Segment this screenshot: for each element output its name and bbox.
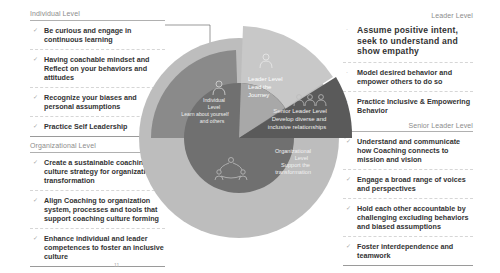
levels-wheel-diagram: Individual Level Learn about yourself an… (0, 0, 500, 273)
page-number: 11 (114, 262, 119, 268)
organizational-label-3: Support the (281, 162, 310, 168)
senior-label-2: Develop diverse and (272, 116, 327, 122)
individual-label-1: Individual (203, 97, 225, 103)
senior-label-3: inclusive relationships (268, 124, 326, 130)
leader-label-2: Lead the (248, 84, 272, 90)
leader-label-1: Leader Level (248, 76, 283, 82)
leader-label-3: Journey (248, 92, 269, 98)
organizational-label-4: transformation (275, 169, 311, 175)
individual-label-2: Level (208, 104, 220, 110)
connector-line-individual (165, 25, 210, 48)
organizational-label-2: Level (295, 155, 308, 161)
senior-label-1: Senior Leader Level (273, 108, 327, 114)
organizational-label-1: Organizational (275, 148, 311, 154)
individual-label-3: Learn about yourself (181, 111, 229, 117)
individual-label-4: and others (200, 118, 225, 124)
